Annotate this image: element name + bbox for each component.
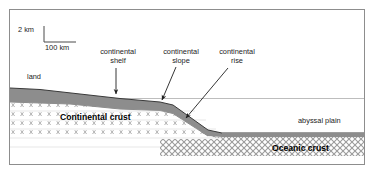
label-continental-slope-line2: slope [150,57,212,66]
label-continental-rise-line2: rise [206,57,268,66]
label-continental-shelf-line2: shelf [88,57,148,66]
diagram-frame: x [9,9,365,165]
abyssal-sediment-band [222,133,365,137]
label-continental-slope: continental slope [150,48,212,65]
label-continental-shelf: continental shelf [88,48,148,65]
scale-vertical-label: 2 km [18,25,34,34]
label-continental-crust: Continental crust [60,113,131,122]
label-continental-rise: continental rise [206,48,268,65]
label-oceanic-crust: Oceanic crust [272,144,329,153]
label-abyssal-plain: abyssal plain [298,116,341,125]
cross-section-graphic: x [10,10,365,165]
scale-horizontal-label: 100 km [45,43,69,52]
diagram-canvas: x [0,0,374,174]
label-land: land [27,72,41,81]
